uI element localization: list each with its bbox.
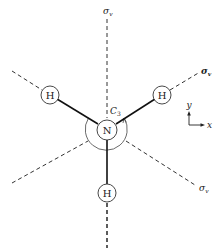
- bond-n-h-left: [57, 99, 98, 124]
- hydrogen-atom-right: H: [153, 86, 171, 104]
- hydrogen-label: H: [46, 90, 55, 101]
- mirror-plane-upper-left: [12, 71, 42, 90]
- mirror-plane-lower-right: [126, 141, 195, 185]
- mirror-plane-lower-left: [12, 141, 88, 183]
- y-axis-label: y: [186, 100, 193, 110]
- nitrogen-atom: N: [97, 120, 117, 140]
- bond-n-h-right: [116, 99, 155, 124]
- hydrogen-atom-bottom: H: [98, 184, 116, 202]
- mirror-plane-label-top: σv: [103, 6, 113, 17]
- nitrogen-label: N: [103, 125, 112, 136]
- hydrogen-label: H: [103, 188, 112, 199]
- x-axis-arrow-icon: [201, 123, 206, 127]
- x-axis-label: x: [207, 120, 212, 130]
- coordinate-axes: [187, 111, 205, 127]
- bonds: [57, 99, 155, 184]
- y-axis-arrow-icon: [187, 111, 191, 116]
- hydrogen-label: H: [158, 90, 167, 101]
- nh3-symmetry-diagram: N H H H C3 σv σv σv y x: [0, 0, 223, 248]
- mirror-plane-upper-right: [170, 72, 200, 90]
- mirror-plane-label-upper-right: σv: [201, 66, 212, 77]
- hydrogen-atom-left: H: [41, 86, 59, 104]
- c3-axis-label: C3: [110, 106, 121, 117]
- mirror-plane-label-lower-right: σv: [199, 183, 209, 194]
